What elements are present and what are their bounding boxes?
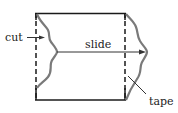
tape-label: tape — [149, 95, 174, 108]
cut-arrowhead-icon — [39, 36, 45, 40]
cut-label: cut — [5, 31, 23, 44]
right-tape-curve — [126, 14, 147, 100]
left-cut-curve — [37, 14, 57, 88]
film-splice-diagram: cut slide tape — [0, 0, 178, 113]
slide-arrowhead-icon — [139, 50, 146, 55]
slide-label: slide — [85, 38, 111, 51]
